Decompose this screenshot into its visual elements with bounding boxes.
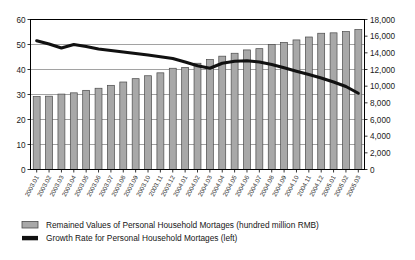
bar-series-group: [33, 30, 362, 170]
bar: [107, 85, 114, 169]
bar: [305, 37, 312, 170]
left-axis-tick-label: 50: [16, 41, 26, 50]
bar: [355, 30, 362, 170]
chart-container: 0102030405060 02,0004,0006,0008,00010,00…: [0, 0, 415, 260]
bar: [120, 82, 127, 170]
right-axis-tick-label: 2,000: [370, 149, 391, 158]
right-axis-tick-label: 14,000: [370, 49, 395, 58]
bar: [256, 49, 263, 170]
bar: [206, 60, 213, 170]
right-axis-tick-label: 18,000: [370, 16, 395, 25]
chart-canvas: 0102030405060 02,0004,0006,0008,00010,00…: [0, 0, 415, 260]
legend-item-label: Growth Rate for Personal Household Morta…: [46, 233, 238, 243]
right-axis-tick-label: 16,000: [370, 32, 395, 41]
bar: [244, 50, 251, 170]
bar: [46, 96, 53, 169]
bar: [169, 68, 176, 169]
right-axis-tick-label: 10,000: [370, 82, 395, 91]
left-axis-tick-label: 40: [16, 66, 26, 75]
bar: [33, 97, 40, 170]
left-axis-tick-label: 30: [16, 91, 26, 100]
right-axis-tick-label: 12,000: [370, 66, 395, 75]
x-axis-labels: 2003.012003.022003.032003.042003.052003.…: [23, 170, 362, 198]
left-axis: 0102030405060: [16, 16, 30, 175]
bar: [194, 63, 201, 169]
left-axis-tick-label: 20: [16, 116, 26, 125]
legend-swatch-bar: [22, 222, 38, 229]
right-axis: 02,0004,0006,0008,00010,00012,00014,0001…: [365, 16, 396, 175]
bar: [95, 88, 102, 169]
left-axis-tick-label: 0: [21, 166, 26, 175]
right-axis-tick-label: 6,000: [370, 116, 391, 125]
bar: [132, 79, 139, 170]
bar: [219, 56, 226, 169]
left-axis-tick-label: 10: [16, 141, 26, 150]
bar: [318, 33, 325, 169]
bar: [293, 40, 300, 170]
bar: [70, 93, 77, 170]
bar: [342, 32, 349, 170]
bar: [145, 76, 152, 170]
chart-legend: Remained Values of Personal Household Mo…: [22, 220, 319, 244]
bar: [58, 94, 65, 169]
right-axis-tick-label: 4,000: [370, 132, 391, 141]
bar: [182, 67, 189, 169]
legend-item-label: Remained Values of Personal Household Mo…: [46, 220, 319, 230]
bar: [231, 53, 238, 169]
right-axis-tick-label: 8,000: [370, 99, 391, 108]
bar: [330, 33, 337, 170]
legend-swatch-line: [22, 236, 38, 240]
bar: [157, 73, 164, 170]
bar: [281, 42, 288, 169]
bar: [83, 90, 90, 169]
left-axis-tick-label: 60: [16, 16, 26, 25]
right-axis-tick-label: 0: [370, 166, 375, 175]
